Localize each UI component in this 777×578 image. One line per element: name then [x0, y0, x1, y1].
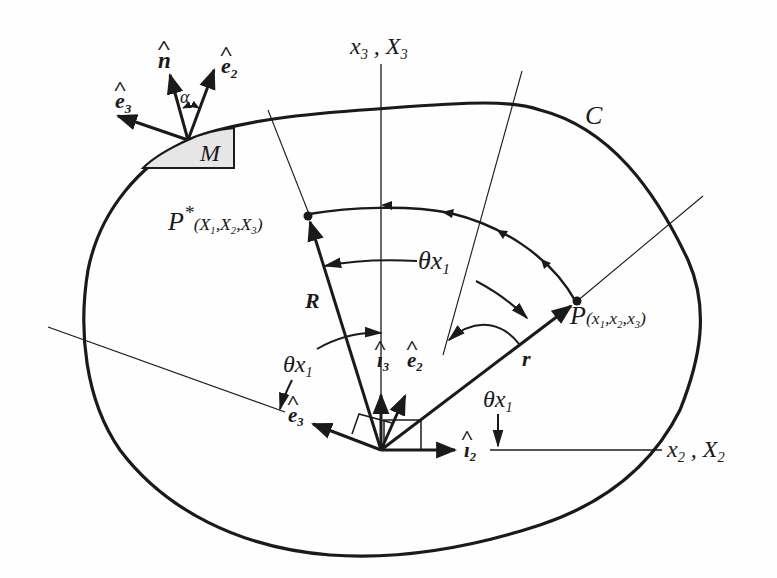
alpha-label: α: [180, 88, 189, 106]
p-label: P(x1,x2,x3): [570, 303, 646, 330]
rotation-diagram: x3 , X3 x2 , X2 C M n e2 e3 α P*(X1,X2,X…: [0, 0, 777, 578]
vector-r-label: r: [522, 348, 531, 370]
e3-hat-origin-label: e3: [288, 405, 304, 429]
e3-axis-line: [48, 327, 285, 412]
point-p-star: [304, 212, 313, 221]
region-label-m: M: [200, 141, 220, 165]
x2-axis-label: x2 , X2: [667, 437, 725, 464]
n-hat-label: n: [158, 49, 171, 72]
e2-hat-top-label: e2: [221, 55, 237, 80]
theta-arc-right-upper: [449, 325, 520, 345]
vector-e2-hat-top: [188, 70, 214, 140]
path-arrowhead: [442, 209, 454, 218]
theta-arc-top-left: [325, 260, 417, 266]
e2-hat-origin-label: e2: [407, 350, 423, 374]
i2-hat-label: ı2: [464, 440, 476, 464]
region-m: [143, 128, 234, 168]
theta-x1-left-label: θx1: [283, 352, 313, 379]
curve-label-c: C: [585, 103, 602, 129]
vector-e3-hat-top: [118, 116, 188, 140]
vector-r: [381, 306, 571, 450]
P-star-ref-line: [268, 110, 309, 214]
theta-x1-top-label: θx1: [418, 248, 450, 277]
theta-arc-top-right: [476, 281, 527, 318]
vector-e3-hat-origin: [313, 424, 381, 450]
i3-hat-label: ı3: [377, 350, 389, 374]
x3-axis-label: x3 , X3: [350, 34, 408, 61]
p-star-label: P*(X1,X2,X3): [168, 203, 263, 236]
e3-hat-top-label: e3: [115, 90, 131, 115]
theta-x1-right-label: θx1: [483, 387, 513, 414]
vector-R-label: R: [305, 290, 320, 312]
